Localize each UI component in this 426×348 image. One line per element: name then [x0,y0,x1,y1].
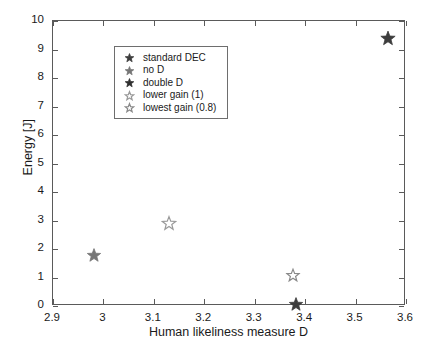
y-tick-label: 2 [0,242,44,254]
data-point-marker[interactable] [380,30,397,47]
y-tick-mark-right [399,306,404,307]
y-tick-mark [53,135,58,136]
x-tick-mark-top [406,21,407,26]
x-tick-mark [103,299,104,304]
y-axis-label: Energy [J] [22,67,35,227]
legend-item-label: lower gain (1) [140,90,204,100]
y-tick-mark-right [399,21,404,22]
plot-area: standard DECno Ddouble Dlower gain (1)lo… [52,20,405,305]
x-tick-label: 3.6 [397,312,413,324]
x-tick-mark [53,299,54,304]
legend-star-icon [118,65,140,76]
legend-item-label: no D [140,65,164,75]
x-tick-mark [406,299,407,304]
legend-item-label: standard DEC [140,53,206,63]
legend-box: standard DECno Ddouble Dlower gain (1)lo… [114,46,228,119]
y-tick-label: 0 [0,299,44,311]
x-tick-mark [255,299,256,304]
legend-item-label: lowest gain (0.8) [140,103,216,113]
y-tick-mark-right [399,107,404,108]
x-tick-mark [204,299,205,304]
legend-item[interactable]: lowest gain (0.8) [118,102,223,114]
x-tick-label: 2.9 [44,312,60,324]
y-tick-mark [53,107,58,108]
x-tick-mark-top [204,21,205,26]
legend-item-label: double D [140,78,183,88]
scatter-plot-figure: standard DECno Ddouble Dlower gain (1)lo… [0,0,426,348]
legend-item[interactable]: double D [118,77,223,89]
y-tick-mark [53,306,58,307]
y-tick-mark-right [399,78,404,79]
data-point-marker[interactable] [286,267,301,282]
x-tick-mark-top [305,21,306,26]
y-tick-mark-right [399,278,404,279]
y-tick-label: 9 [0,43,44,55]
legend-item[interactable]: standard DEC [118,52,223,64]
legend-star-icon [118,90,140,101]
y-tick-label: 1 [0,271,44,283]
x-tick-label: 3 [99,312,105,324]
y-tick-mark-right [399,221,404,222]
legend-star-icon [118,52,140,63]
y-tick-mark [53,50,58,51]
legend-star-icon [118,77,140,88]
x-tick-label: 3.4 [296,312,312,324]
x-tick-mark [154,299,155,304]
x-tick-mark [356,299,357,304]
x-tick-mark-top [356,21,357,26]
x-axis-label: Human likeliness measure D [52,326,405,339]
data-point-marker[interactable] [86,247,102,263]
x-tick-mark-top [103,21,104,26]
data-point-marker[interactable] [288,296,304,312]
y-tick-mark [53,249,58,250]
y-tick-mark [53,278,58,279]
y-tick-mark [53,221,58,222]
y-tick-mark-right [399,249,404,250]
legend-star-icon [118,102,140,113]
x-tick-mark-top [154,21,155,26]
legend-item[interactable]: lower gain (1) [118,89,223,101]
y-tick-mark-right [399,50,404,51]
y-tick-label: 10 [0,14,44,26]
x-tick-label: 3.1 [145,312,161,324]
y-tick-mark-right [399,192,404,193]
y-tick-mark [53,164,58,165]
y-tick-mark [53,21,58,22]
data-point-marker[interactable] [161,215,177,231]
x-tick-mark-top [255,21,256,26]
x-tick-label: 3.3 [246,312,262,324]
x-tick-label: 3.2 [195,312,211,324]
y-tick-mark [53,192,58,193]
x-tick-label: 3.5 [347,312,363,324]
x-tick-mark [305,299,306,304]
y-tick-mark-right [399,164,404,165]
y-tick-mark [53,78,58,79]
y-tick-mark-right [399,135,404,136]
legend-item[interactable]: no D [118,64,223,76]
